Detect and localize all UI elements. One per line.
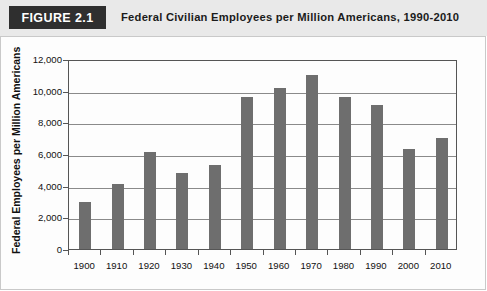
bar-slot [264, 61, 296, 249]
bar[interactable] [241, 97, 253, 249]
bar-slot [393, 61, 425, 249]
y-axis-tick-label: 6,000 [6, 149, 62, 160]
bar-slot [231, 61, 263, 249]
bar-slot [166, 61, 198, 249]
x-axis-tick-mark [425, 250, 426, 255]
y-axis-tick-label: 4,000 [6, 181, 62, 192]
plot-area [68, 60, 457, 250]
bar-series [69, 61, 456, 249]
figure-title: Federal Civilian Employees per Million A… [121, 11, 459, 23]
bar[interactable] [306, 75, 318, 249]
bar[interactable] [371, 105, 383, 249]
bar-slot [199, 61, 231, 249]
x-axis-tick-mark [133, 250, 134, 255]
bar-slot [134, 61, 166, 249]
y-axis-tick-label: 2,000 [6, 212, 62, 223]
x-axis-tick-mark [68, 250, 69, 255]
x-axis-tick-mark [392, 250, 393, 255]
bar[interactable] [79, 202, 91, 250]
y-axis-tick-label: 0 [6, 244, 62, 255]
x-axis-tick-mark [327, 250, 328, 255]
x-axis-tick-mark [198, 250, 199, 255]
bar-slot [69, 61, 101, 249]
bar-chart: Federal Employees per Million Americans … [0, 36, 487, 291]
y-axis-tick-label: 12,000 [6, 54, 62, 65]
x-axis-tick-mark [230, 250, 231, 255]
bar[interactable] [112, 184, 124, 249]
y-axis-tick-label: 10,000 [6, 86, 62, 97]
figure-header: FIGURE 2.1 Federal Civilian Employees pe… [0, 0, 487, 36]
y-axis-tick-mark [63, 218, 68, 219]
bar[interactable] [436, 138, 448, 249]
x-axis-tick-mark [100, 250, 101, 255]
y-axis-tick-label: 8,000 [6, 117, 62, 128]
bar[interactable] [176, 173, 188, 249]
bar[interactable] [274, 88, 286, 250]
x-axis-tick-label: 2010 [421, 260, 461, 271]
x-axis-tick-mark [360, 250, 361, 255]
bar[interactable] [403, 149, 415, 249]
bar-slot [101, 61, 133, 249]
bar-slot [296, 61, 328, 249]
bar-slot [328, 61, 360, 249]
x-axis-tick-mark [263, 250, 264, 255]
y-axis-tick-mark [63, 92, 68, 93]
bar-slot [426, 61, 458, 249]
y-axis-tick-mark [63, 123, 68, 124]
bar[interactable] [144, 152, 156, 249]
bar[interactable] [209, 165, 221, 249]
y-axis-tick-mark [63, 155, 68, 156]
x-axis-tick-mark [165, 250, 166, 255]
x-axis-tick-mark [295, 250, 296, 255]
bar-slot [361, 61, 393, 249]
bar[interactable] [339, 97, 351, 249]
figure-number-badge: FIGURE 2.1 [9, 6, 106, 29]
y-axis-tick-mark [63, 187, 68, 188]
y-axis-tick-mark [63, 60, 68, 61]
